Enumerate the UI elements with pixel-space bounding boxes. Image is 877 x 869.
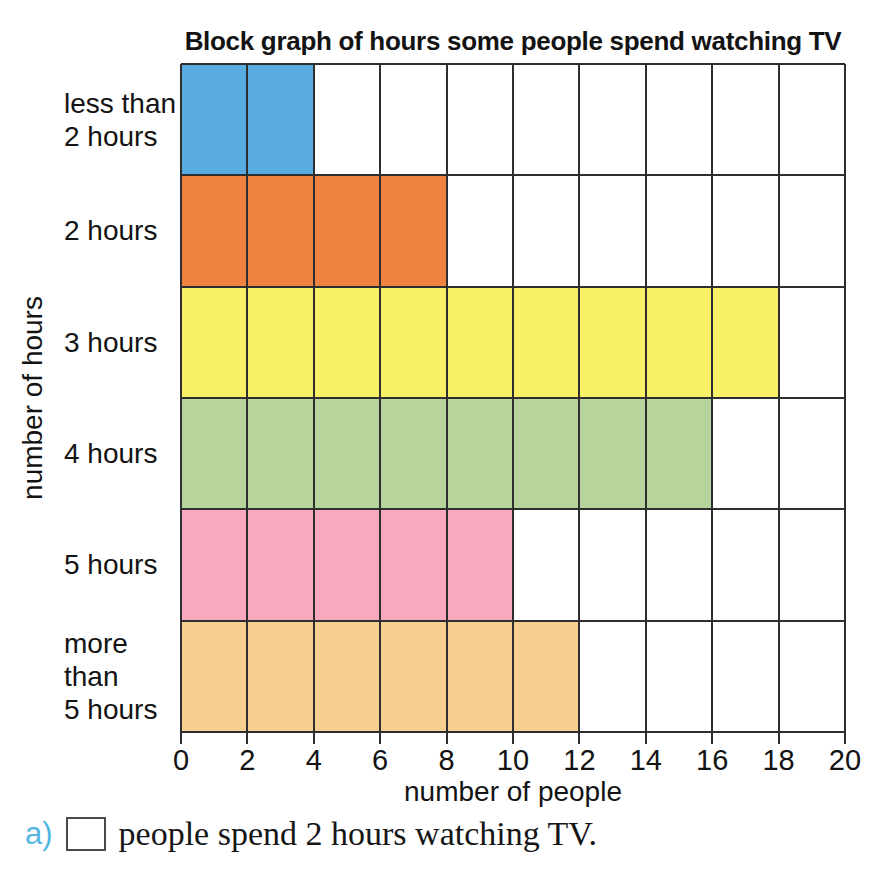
x-tick-label: 16	[696, 744, 728, 777]
x-axis-ticks	[181, 732, 845, 744]
x-axis-tick	[180, 732, 182, 744]
x-tick-label: 4	[306, 744, 322, 777]
x-axis-label: number of people	[181, 776, 845, 808]
x-tick-label: 0	[173, 744, 189, 777]
chart-row-1	[181, 175, 845, 286]
bar-2-hours	[181, 175, 447, 286]
block-graph-plot-area	[181, 64, 845, 732]
chart-row-0	[181, 64, 845, 175]
x-axis-tick	[512, 732, 514, 744]
x-tick-label: 12	[563, 744, 595, 777]
x-tick-label: 6	[372, 744, 388, 777]
worksheet-page: Block graph of hours some people spend w…	[0, 0, 877, 869]
x-axis-tick	[844, 732, 846, 744]
x-tick-label: 20	[829, 744, 861, 777]
x-tick-label: 8	[439, 744, 455, 777]
bar-3-hours	[181, 287, 779, 398]
category-label-less-than-2-hours: less than2 hours	[64, 64, 178, 175]
question-text: people spend 2 hours watching TV.	[119, 815, 597, 853]
chart-row-3	[181, 398, 845, 509]
category-labels: less than2 hours2 hours3 hours4 hours5 h…	[64, 64, 178, 732]
x-axis-tick	[711, 732, 713, 744]
question-a: a) people spend 2 hours watching TV.	[25, 806, 597, 862]
chart-row-5	[181, 621, 845, 732]
x-axis-tick	[379, 732, 381, 744]
x-tick-label: 10	[497, 744, 529, 777]
chart-row-4	[181, 509, 845, 620]
x-axis-tick	[778, 732, 780, 744]
bar-5-hours	[181, 509, 513, 620]
x-tick-label: 2	[239, 744, 255, 777]
chart-row-2	[181, 287, 845, 398]
x-axis-tick	[446, 732, 448, 744]
bar-more-than-5-hours	[181, 621, 579, 732]
y-axis-label: number of hours	[17, 296, 49, 500]
question-letter: a)	[25, 816, 53, 852]
category-label-5-hours: 5 hours	[64, 509, 178, 620]
x-tick-label: 14	[630, 744, 662, 777]
x-axis-tick-labels: 02468101214161820	[181, 744, 845, 776]
category-label-more-than-5-hours: morethan5 hours	[64, 621, 178, 732]
x-axis-tick	[313, 732, 315, 744]
answer-box[interactable]	[66, 817, 106, 851]
x-axis-tick	[246, 732, 248, 744]
bar-4-hours	[181, 398, 712, 509]
category-label-3-hours: 3 hours	[64, 287, 178, 398]
category-label-2-hours: 2 hours	[64, 175, 178, 286]
x-tick-label: 18	[762, 744, 794, 777]
x-axis-tick	[645, 732, 647, 744]
x-axis-tick	[578, 732, 580, 744]
bar-less-than-2-hours	[181, 64, 314, 175]
chart-title: Block graph of hours some people spend w…	[178, 26, 848, 57]
category-label-4-hours: 4 hours	[64, 398, 178, 509]
